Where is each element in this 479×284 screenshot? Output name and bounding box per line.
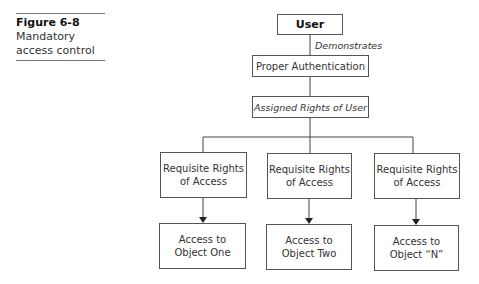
edge-label-demonstrates: Demonstrates bbox=[315, 40, 382, 51]
requisite-label-line1: Requisite Rights bbox=[377, 163, 458, 176]
authentication-node: Proper Authentication bbox=[252, 55, 369, 77]
assigned-rights-node: Assigned Rights of User bbox=[252, 96, 369, 118]
object-label-line2: Object Two bbox=[282, 247, 337, 260]
object-label-line1: Access to bbox=[390, 235, 444, 248]
user-node: User bbox=[277, 14, 343, 35]
access-object-node-2: Access toObject Two bbox=[266, 224, 352, 270]
requisite-rights-node-3: Requisite Rightsof Access bbox=[374, 153, 460, 199]
object-label-line2: Object One bbox=[174, 246, 230, 259]
requisite-label-line1: Requisite Rights bbox=[163, 162, 244, 175]
assigned-rights-label: Assigned Rights of User bbox=[254, 101, 367, 114]
access-object-node-1: Access toObject One bbox=[159, 223, 246, 269]
object-label-line2: Object “N” bbox=[390, 248, 444, 261]
access-object-node-3: Access toObject “N” bbox=[374, 225, 459, 271]
requisite-label-line2: of Access bbox=[269, 176, 350, 189]
requisite-rights-node-1: Requisite Rightsof Access bbox=[160, 152, 247, 198]
requisite-label-line2: of Access bbox=[163, 175, 244, 188]
user-label: User bbox=[296, 18, 324, 31]
object-label-line1: Access to bbox=[174, 233, 230, 246]
requisite-label-line1: Requisite Rights bbox=[269, 163, 350, 176]
authentication-label: Proper Authentication bbox=[256, 60, 365, 73]
requisite-rights-node-2: Requisite Rightsof Access bbox=[267, 153, 352, 199]
requisite-label-line2: of Access bbox=[377, 176, 458, 189]
object-label-line1: Access to bbox=[282, 234, 337, 247]
